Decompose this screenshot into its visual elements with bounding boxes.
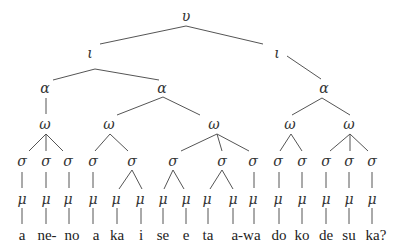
node-prosodic-word: ω [343,116,355,132]
node-mora: μ [344,191,353,207]
node-mora: μ [273,191,282,207]
node-mora: μ [367,191,376,207]
node-prosodic-word: ω [208,116,220,132]
segment-word: ta [203,227,214,243]
node-syllable: σ [88,153,98,169]
segment-word: e [183,227,190,243]
segment-word: ka [110,227,125,243]
node-syllable: σ [217,153,227,169]
segment-word: a-wa [231,227,260,243]
node-syllable: σ [248,153,258,169]
node-syllable: σ [17,153,27,169]
node-syllable: σ [41,153,51,169]
node-intonation-phrase: ι [87,45,93,61]
node-syllable: σ [127,153,137,169]
segment-word: ne- [37,227,56,243]
node-prosodic-word: ω [39,116,51,132]
segment-word: ka? [366,227,387,243]
segment-word: ko [295,227,310,243]
node-prosodic-word: ω [103,116,115,132]
node-mora: μ [17,191,26,207]
node-mora: μ [63,191,72,207]
tree-edges [22,26,372,224]
node-accentual-phrase: α [157,80,167,96]
node-mora: μ [248,191,257,207]
segment-word: i [139,227,143,243]
node-syllable: σ [344,153,354,169]
tree-node-labels: υ ι ι α α α ω ω ω ω ω σ σ σ σ σ σ σ σ σ … [17,8,377,207]
segment-word: se [157,227,170,243]
node-mora: μ [135,191,144,207]
node-mora: μ [202,191,211,207]
prosodic-tree-diagram: υ ι ι α α α ω ω ω ω ω σ σ σ σ σ σ σ σ σ … [0,0,401,249]
node-mora: μ [181,191,190,207]
node-syllable: σ [168,153,178,169]
segment-word: de [319,227,334,243]
node-utterance: υ [182,8,191,24]
node-syllable: σ [367,153,377,169]
node-syllable: σ [63,153,73,169]
node-syllable: σ [273,153,283,169]
segment-words: a ne- no a ka i se e ta a-wa do ko de su… [19,227,387,243]
node-mora: μ [111,191,120,207]
node-intonation-phrase: ι [274,45,280,61]
node-mora: μ [41,191,50,207]
node-mora: μ [228,191,237,207]
node-accentual-phrase: α [40,80,50,96]
segment-word: a [93,227,100,243]
segment-word: do [272,227,287,243]
node-syllable: σ [297,153,307,169]
node-mora: μ [321,191,330,207]
segment-word: su [342,227,356,243]
node-mora: μ [297,191,306,207]
segment-word: a [19,227,26,243]
node-syllable: σ [321,153,331,169]
node-prosodic-word: ω [284,116,296,132]
segment-word: no [65,227,80,243]
node-accentual-phrase: α [319,80,329,96]
node-mora: μ [88,191,97,207]
node-mora: μ [158,191,167,207]
